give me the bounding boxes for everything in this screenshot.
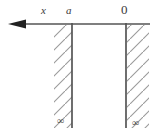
axis-arrow-head [8,20,26,29]
infinity-label-right: ∞ [132,118,139,128]
hatch-region-right [127,25,149,128]
potential-well-figure: x a 0 ∞ ∞ [0,0,162,134]
figure-canvas [0,0,162,134]
infinity-label-left: ∞ [57,116,64,126]
axis-label-zero: 0 [121,3,128,16]
axis-label-a: a [66,5,72,16]
axis-label-x: x [41,5,46,16]
hatch-region-left [54,25,72,128]
